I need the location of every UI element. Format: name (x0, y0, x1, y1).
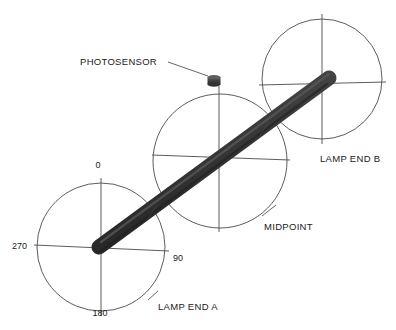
leader-line-photosensor (168, 62, 208, 76)
photosensor-base (208, 82, 221, 86)
label-midpoint: MIDPOINT (264, 221, 313, 232)
tick-label-90: 90 (173, 253, 183, 263)
lamp-tube-highlight (101, 74, 329, 242)
tick-label-270: 270 (12, 241, 27, 251)
lamp-orientation-diagram: PHOTOSENSOR LAMP END B MIDPOINT LAMP END… (0, 0, 396, 330)
label-lamp-end-b: LAMP END B (320, 153, 380, 164)
photosensor-device (208, 75, 221, 87)
diagram-canvas: PHOTOSENSOR LAMP END B MIDPOINT LAMP END… (0, 0, 396, 330)
leader-line-lamp-end-a (148, 291, 158, 300)
tick-label-180: 180 (92, 308, 107, 318)
tick-label-0: 0 (95, 160, 100, 170)
label-photosensor: PHOTOSENSOR (80, 56, 157, 67)
label-lamp-end-a: LAMP END A (158, 301, 218, 312)
